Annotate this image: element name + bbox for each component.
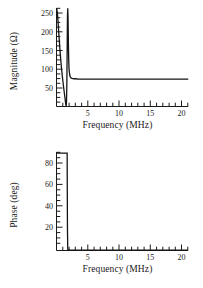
magnitude-xtick-15: 15 — [146, 109, 154, 118]
phase-panel: Phase (deg) Frequency (MHz) 80 60 40 20 — [0, 144, 203, 288]
phase-y-minor-ticks — [57, 152, 61, 243]
phase-data-line — [57, 153, 188, 250]
phase-axes — [57, 152, 189, 251]
magnitude-ytick-50: 50 — [45, 84, 53, 93]
magnitude-y-ticks: 250 200 150 100 50 — [41, 9, 63, 93]
magnitude-xtick-20: 20 — [178, 109, 186, 118]
magnitude-ytick-250: 250 — [41, 9, 53, 18]
magnitude-plot-svg: 250 200 150 100 50 — [0, 0, 203, 144]
magnitude-panel: Magnitude (Ω) Frequency (MHz) 250 200 15… — [0, 0, 203, 144]
magnitude-xtick-5: 5 — [86, 109, 90, 118]
phase-plot-svg: 80 60 40 20 — [0, 144, 203, 288]
magnitude-ytick-150: 150 — [41, 47, 53, 56]
magnitude-ytick-100: 100 — [41, 65, 53, 74]
magnitude-data-line — [57, 9, 188, 106]
magnitude-ytick-200: 200 — [41, 28, 53, 37]
figure-impedance-response: Magnitude (Ω) Frequency (MHz) 250 200 15… — [0, 0, 203, 288]
phase-ytick-80: 80 — [45, 159, 53, 168]
phase-xtick-20: 20 — [178, 253, 186, 262]
phase-xtick-15: 15 — [146, 253, 154, 262]
phase-xtick-10: 10 — [115, 253, 123, 262]
phase-ytick-40: 40 — [45, 202, 53, 211]
magnitude-axes — [57, 8, 189, 107]
phase-y-ticks: 80 60 40 20 — [45, 159, 63, 232]
magnitude-x-minor-ticks — [63, 103, 188, 107]
magnitude-xtick-10: 10 — [115, 109, 123, 118]
phase-ytick-20: 20 — [45, 223, 53, 232]
phase-xtick-5: 5 — [86, 253, 90, 262]
phase-ytick-60: 60 — [45, 180, 53, 189]
